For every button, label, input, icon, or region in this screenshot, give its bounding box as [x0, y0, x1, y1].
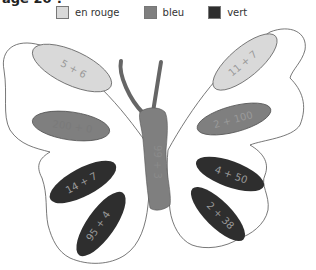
right-antenna: [153, 62, 161, 112]
body-sum: 99 + 3: [152, 145, 163, 179]
left-antenna: [121, 61, 143, 113]
butterfly-illustration: 99 + 3 5 + 6 200 + 0 14 + 7 95 + 4 11 + …: [0, 0, 316, 270]
